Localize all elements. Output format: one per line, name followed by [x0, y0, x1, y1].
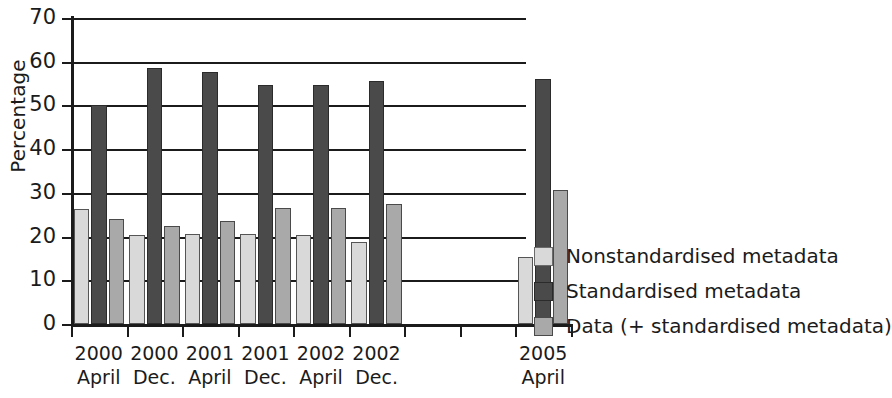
gridline-50 — [71, 105, 526, 107]
x-tick-4 — [293, 324, 295, 337]
x-category-year-2: 2001 — [186, 342, 234, 364]
bar-2-0 — [185, 234, 201, 324]
x-category-year-0: 2000 — [75, 342, 123, 364]
x-category-year-3: 2001 — [241, 342, 289, 364]
legend-item-0[interactable]: Nonstandardised metadata — [534, 240, 892, 272]
bar-5-0 — [351, 242, 367, 324]
x-category-year-5: 2002 — [352, 342, 400, 364]
legend-label-2: Data (+ standardised metadata) — [566, 315, 892, 337]
x-category-month-5: Dec. — [341, 365, 413, 389]
x-category-year-8: 2005 — [519, 342, 567, 364]
bar-2-2 — [220, 221, 236, 324]
y-tick-10: 10 — [62, 280, 72, 282]
y-tick-40: 40 — [62, 149, 72, 151]
bar-0-2 — [109, 219, 125, 324]
y-tick-label-70: 70 — [16, 7, 56, 28]
y-tick-label-30: 30 — [16, 182, 56, 203]
legend-item-2[interactable]: Data (+ standardised metadata) — [534, 310, 892, 342]
bar-8-0 — [518, 257, 534, 324]
x-tick-6 — [404, 324, 406, 337]
gridline-60 — [71, 62, 526, 64]
y-tick-label-20: 20 — [16, 226, 56, 247]
x-tick-0 — [71, 324, 73, 337]
x-tick-2 — [182, 324, 184, 337]
x-axis-line — [71, 324, 571, 327]
legend-swatch-icon-2 — [534, 317, 553, 336]
bar-4-0 — [296, 235, 312, 324]
x-tick-7 — [460, 324, 462, 337]
x-category-year-1: 2000 — [130, 342, 178, 364]
x-tick-1 — [127, 324, 129, 337]
chart-legend: Nonstandardised metadataStandardised met… — [534, 240, 892, 345]
bar-1-0 — [129, 235, 145, 324]
y-tick-50: 50 — [62, 105, 72, 107]
bar-4-1 — [313, 85, 329, 324]
bar-1-2 — [164, 226, 180, 324]
x-category-label-8: 2005April — [507, 341, 579, 389]
legend-swatch-icon-0 — [534, 247, 553, 266]
bar-3-0 — [240, 234, 256, 324]
y-tick-label-60: 60 — [16, 51, 56, 72]
bar-3-2 — [275, 208, 291, 324]
x-category-year-4: 2002 — [297, 342, 345, 364]
legend-swatch-icon-1 — [534, 282, 553, 301]
y-tick-label-40: 40 — [16, 138, 56, 159]
x-category-label-5: 2002Dec. — [341, 341, 413, 389]
x-tick-3 — [238, 324, 240, 337]
bar-0-0 — [74, 209, 90, 324]
x-category-month-8: April — [507, 365, 579, 389]
legend-label-1: Standardised metadata — [566, 280, 801, 302]
y-tick-label-10: 10 — [16, 269, 56, 290]
y-tick-label-50: 50 — [16, 94, 56, 115]
bar-3-1 — [258, 85, 274, 324]
plot-area: 010203040506070 — [71, 18, 526, 324]
gridline-30 — [71, 193, 526, 195]
bar-2-1 — [202, 72, 218, 324]
legend-item-1[interactable]: Standardised metadata — [534, 275, 892, 307]
bar-5-2 — [386, 204, 402, 324]
gridline-70 — [71, 18, 526, 20]
bar-0-1 — [91, 105, 107, 324]
gridline-40 — [71, 149, 526, 151]
x-tick-5 — [349, 324, 351, 337]
y-tick-70: 70 — [62, 18, 72, 20]
bar-4-2 — [331, 208, 347, 324]
y-tick-20: 20 — [62, 237, 72, 239]
bar-1-1 — [147, 68, 163, 324]
bar-5-1 — [369, 81, 385, 324]
x-tick-8 — [515, 324, 517, 337]
legend-label-0: Nonstandardised metadata — [566, 245, 839, 267]
y-tick-60: 60 — [62, 62, 72, 64]
y-tick-label-0: 0 — [16, 313, 56, 334]
y-tick-30: 30 — [62, 193, 72, 195]
